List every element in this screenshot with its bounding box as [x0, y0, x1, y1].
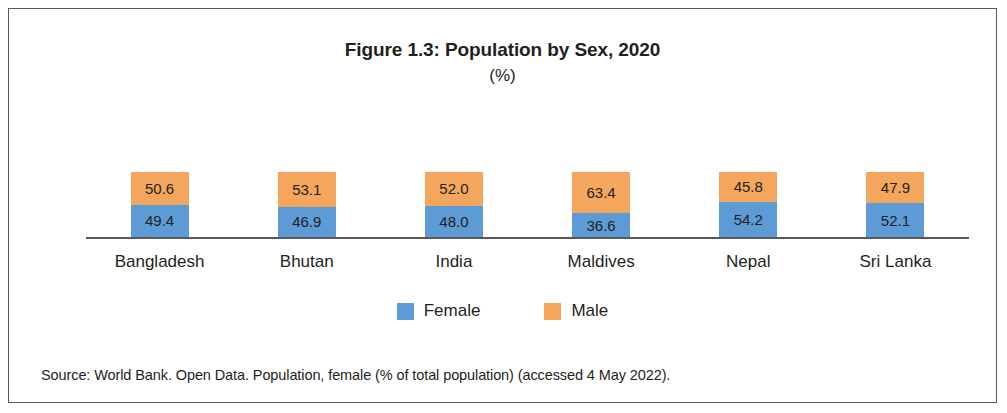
bar-segment-female: 52.1	[866, 203, 924, 237]
legend-entry: Male	[544, 301, 608, 321]
stacked-bar: 50.649.4	[131, 172, 189, 237]
bar-segment-male: 53.1	[278, 172, 336, 207]
category-label: Maldives	[528, 252, 675, 272]
bar-segment-male: 45.8	[719, 172, 777, 202]
source-note: Source: World Bank. Open Data. Populatio…	[41, 367, 670, 383]
bar-segment-male: 63.4	[572, 172, 630, 213]
bar-segment-female: 46.9	[278, 207, 336, 237]
plot-area: 50.649.453.146.952.048.063.436.645.854.2…	[9, 9, 996, 402]
chart-legend: FemaleMale	[9, 301, 996, 321]
stacked-bar: 52.048.0	[425, 172, 483, 237]
bar-segment-female: 48.0	[425, 206, 483, 237]
category-label: Bhutan	[233, 252, 380, 272]
bar-segment-female: 49.4	[131, 205, 189, 237]
bar-group: 45.854.2	[675, 109, 822, 237]
stacked-bar: 53.146.9	[278, 172, 336, 237]
category-label: Sri Lanka	[822, 252, 969, 272]
bar-group: 50.649.4	[86, 109, 233, 237]
bar-group: 47.952.1	[822, 109, 969, 237]
figure-container: Figure 1.3: Population by Sex, 2020 (%) …	[8, 8, 997, 403]
bar-segment-male: 47.9	[866, 172, 924, 203]
bar-segment-female: 54.2	[719, 202, 777, 237]
stacked-bar: 63.436.6	[572, 172, 630, 237]
bar-segment-male: 50.6	[131, 172, 189, 205]
legend-swatch-icon	[544, 303, 561, 320]
category-label: India	[380, 252, 527, 272]
bar-group: 52.048.0	[380, 109, 527, 237]
bar-group: 63.436.6	[528, 109, 675, 237]
legend-label: Male	[571, 301, 608, 321]
stacked-bar: 45.854.2	[719, 172, 777, 237]
legend-swatch-icon	[397, 303, 414, 320]
legend-entry: Female	[397, 301, 481, 321]
stacked-bar: 47.952.1	[866, 172, 924, 237]
x-axis-line	[86, 237, 969, 239]
category-label: Bangladesh	[86, 252, 233, 272]
bars-row: 50.649.453.146.952.048.063.436.645.854.2…	[86, 109, 969, 237]
bar-group: 53.146.9	[233, 109, 380, 237]
bar-segment-female: 36.6	[572, 213, 630, 237]
category-label: Nepal	[675, 252, 822, 272]
legend-label: Female	[424, 301, 481, 321]
bar-segment-male: 52.0	[425, 172, 483, 206]
category-axis-labels: BangladeshBhutanIndiaMaldivesNepalSri La…	[86, 252, 969, 272]
